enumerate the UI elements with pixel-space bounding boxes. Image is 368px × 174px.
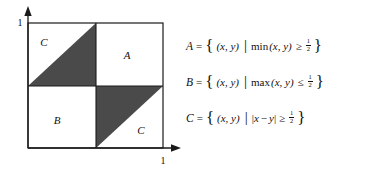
region-label-c-lower-right: C: [137, 125, 144, 136]
equation-b-numerator: 1: [309, 74, 312, 81]
equation-c-abs-left-var: x: [254, 112, 259, 124]
equation-set-b: B = { (x, y) | max (x, y) ≤ 1 2 }: [186, 74, 324, 90]
figure-root: 1 1 C A B C A = { (x, y) | min (x, y) ≥ …: [0, 0, 368, 174]
equation-a-function-arguments: (x, y): [269, 40, 292, 52]
y-axis-tick-label-1: 1: [18, 18, 23, 28]
equation-b-function-arguments: (x, y): [271, 76, 294, 88]
region-label-a: A: [124, 50, 131, 61]
equation-b-threshold-fraction: 1 2: [308, 74, 313, 90]
equation-b-tuple: (x, y): [216, 76, 239, 88]
equation-b-set-name: B: [186, 76, 193, 88]
diagram-canvas: [0, 0, 200, 174]
set-definitions-list: A = { (x, y) | min (x, y) ≥ 1 2 } B = { …: [186, 38, 368, 158]
equation-c-minus-sign: −: [261, 112, 267, 124]
equation-a-function-name: min: [251, 40, 268, 52]
equation-b-function-name: max: [251, 76, 270, 88]
unit-square-diagram: 1 1 C A B C: [0, 0, 200, 174]
equation-a-tuple: (x, y): [216, 40, 239, 52]
equation-a-denominator: 2: [307, 46, 310, 53]
region-label-c-upper-left: C: [40, 37, 47, 48]
equation-c-set-name: C: [186, 112, 194, 124]
equation-c-numerator: 1: [290, 110, 293, 117]
equation-c-denominator: 2: [290, 118, 293, 125]
equation-a-equals-sign: =: [196, 40, 202, 52]
region-label-b: B: [54, 115, 61, 126]
equation-b-divider: |: [244, 76, 247, 87]
equation-c-abs-close: |: [274, 112, 276, 124]
equation-b-equals-sign: =: [196, 76, 202, 88]
equation-b-close-brace: }: [316, 76, 324, 88]
equation-c-divider: |: [245, 112, 248, 123]
equation-a-numerator: 1: [307, 38, 310, 45]
equation-c-close-brace: }: [297, 112, 305, 124]
equation-b-denominator: 2: [309, 82, 312, 89]
equation-a-open-brace: {: [205, 40, 213, 52]
equation-c-threshold-fraction: 1 2: [289, 110, 294, 126]
lower-right-shaded-triangle: [96, 86, 163, 148]
x-axis-tick-label-1: 1: [161, 156, 166, 166]
equation-c-relation: ≥: [279, 112, 285, 124]
equation-b-relation: ≤: [298, 76, 304, 88]
equation-a-divider: |: [244, 40, 247, 51]
equation-a-close-brace: }: [314, 40, 322, 52]
equation-set-c: C = { (x, y) | | x − y | ≥ 1 2 }: [186, 110, 305, 126]
equation-c-tuple: (x, y): [217, 112, 240, 124]
equation-set-a: A = { (x, y) | min (x, y) ≥ 1 2 }: [186, 38, 322, 54]
equation-a-relation: ≥: [296, 40, 302, 52]
equation-b-open-brace: {: [205, 76, 213, 88]
equation-a-threshold-fraction: 1 2: [306, 38, 311, 54]
equation-c-equals-sign: =: [197, 112, 203, 124]
equation-a-set-name: A: [186, 40, 193, 52]
equation-c-open-brace: {: [206, 112, 214, 124]
upper-left-shaded-triangle: [28, 23, 96, 86]
